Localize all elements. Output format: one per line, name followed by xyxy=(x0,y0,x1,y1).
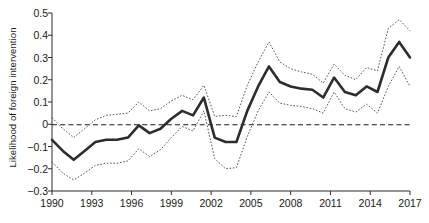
x-axis-tick-label: 2008 xyxy=(279,197,302,209)
x-axis-tick-label: 2005 xyxy=(239,197,262,209)
x-axis-tick-label: 2014 xyxy=(359,197,382,209)
x-axis-tick-label: 1990 xyxy=(40,197,63,209)
x-axis-tick-label: 2017 xyxy=(398,197,421,209)
plot-area xyxy=(0,0,429,223)
x-axis-tick-label: 2011 xyxy=(319,197,342,209)
point-estimate-line xyxy=(52,42,410,160)
upper-confidence-bound-line xyxy=(52,20,410,138)
axis-lines xyxy=(52,13,410,191)
x-axis-tick-label: 1996 xyxy=(120,197,143,209)
x-axis-tick-label: 1993 xyxy=(80,197,103,209)
x-axis-tick-label: 1999 xyxy=(160,197,183,209)
lower-confidence-bound-line xyxy=(52,66,410,179)
x-axis-ticks xyxy=(52,191,410,195)
x-axis-tick-label: 2002 xyxy=(199,197,222,209)
y-axis-ticks xyxy=(48,13,52,191)
chart-container: Likelihood of foreign intervention −0.3−… xyxy=(0,0,429,223)
